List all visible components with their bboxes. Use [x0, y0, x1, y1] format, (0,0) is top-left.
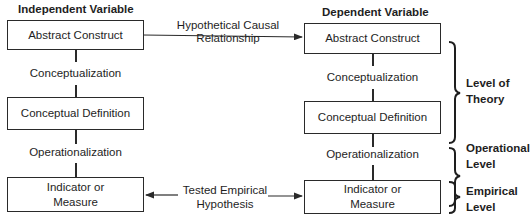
independent-connector-2	[75, 85, 77, 97]
independent-indicator-box: Indicator or Measure	[7, 177, 144, 212]
level-empirical-label: Empirical Level	[466, 183, 518, 215]
independent-connector-4	[75, 163, 77, 177]
level-theory-line2: Theory	[466, 91, 509, 107]
dependent-connector-1	[372, 54, 374, 66]
independent-conceptual-definition-box: Conceptual Definition	[7, 97, 144, 130]
independent-connector-3	[75, 130, 77, 144]
level-theory-label: Level of Theory	[466, 75, 509, 107]
level-theory-line1: Level of	[466, 75, 509, 91]
dependent-connector-2	[372, 89, 374, 101]
independent-indicator-line1: Indicator or	[47, 180, 105, 195]
causal-line1: Hypothetical Causal	[168, 19, 288, 32]
independent-conceptualization-label: Conceptualization	[7, 67, 144, 79]
dependent-connector-3	[372, 134, 374, 147]
dependent-conceptual-definition-label: Conceptual Definition	[318, 110, 427, 125]
empirical-line1: Tested Empirical	[175, 183, 275, 197]
dependent-abstract-construct-label: Abstract Construct	[325, 31, 420, 46]
independent-indicator-line2: Measure	[53, 195, 98, 210]
dependent-indicator-box: Indicator or Measure	[304, 180, 441, 214]
level-operational-label: Operational Level	[466, 140, 530, 172]
causal-line2: Relationship	[168, 32, 288, 45]
level-empirical-line2: Level	[466, 199, 518, 215]
independent-operationalization-label: Operationalization	[7, 146, 144, 158]
dependent-conceptualization-label: Conceptualization	[304, 71, 441, 83]
independent-conceptual-definition-label: Conceptual Definition	[21, 106, 130, 121]
brace-theory	[449, 42, 460, 143]
level-operational-line1: Operational	[466, 140, 530, 156]
dependent-abstract-construct-box: Abstract Construct	[304, 23, 441, 54]
empirical-line2: Hypothesis	[175, 197, 275, 211]
dependent-operationalization-label: Operationalization	[304, 148, 441, 160]
independent-abstract-construct-label: Abstract Construct	[28, 28, 123, 43]
tested-empirical-hypothesis-label: Tested Empirical Hypothesis	[175, 183, 275, 211]
dependent-indicator-line1: Indicator or	[344, 182, 402, 197]
level-operational-line2: Level	[466, 156, 530, 172]
independent-connector-1	[75, 50, 77, 62]
dependent-connector-4	[372, 165, 374, 180]
independent-abstract-construct-box: Abstract Construct	[7, 20, 144, 50]
level-empirical-line1: Empirical	[466, 183, 518, 199]
dependent-indicator-line2: Measure	[350, 197, 395, 212]
dependent-conceptual-definition-box: Conceptual Definition	[304, 101, 441, 134]
causal-relationship-label: Hypothetical Causal Relationship	[168, 19, 288, 45]
